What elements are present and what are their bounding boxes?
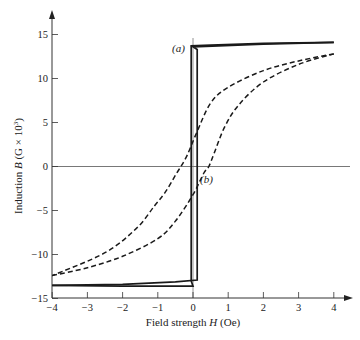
- x-tick-label: 3: [296, 302, 301, 313]
- hysteresis-chart: −15−10−5051015 −4−3−2−101234 (a) (b) Fie…: [0, 0, 360, 340]
- annotation-a: (a): [172, 42, 185, 55]
- x-tick-label: −1: [152, 302, 163, 313]
- x-ticks: −4−3−2−101234: [47, 292, 338, 313]
- y-axis-arrow-icon: [49, 10, 55, 19]
- x-tick-label: −4: [47, 302, 59, 313]
- x-tick-label: 4: [331, 302, 337, 313]
- y-tick-label: −5: [37, 205, 48, 216]
- y-tick-label: −15: [32, 293, 48, 304]
- y-tick-label: 5: [43, 117, 48, 128]
- x-tick-label: 1: [226, 302, 231, 313]
- x-tick-label: −2: [117, 302, 128, 313]
- y-tick-label: 10: [38, 73, 49, 84]
- x-axis-arrow-icon: [344, 295, 353, 301]
- x-tick-label: −3: [82, 302, 93, 313]
- y-ticks: −15−10−5051015: [32, 29, 58, 304]
- y-tick-label: −10: [32, 249, 48, 260]
- y-axis-title: Induction B (G × 103): [12, 118, 25, 214]
- x-tick-label: 2: [261, 302, 266, 313]
- x-axis-title: Field strength H (Oe): [146, 316, 241, 329]
- annotation-b: (b): [200, 173, 213, 186]
- y-tick-label: 15: [38, 29, 49, 40]
- x-tick-label: 0: [190, 302, 195, 313]
- y-tick-label: 0: [43, 161, 48, 172]
